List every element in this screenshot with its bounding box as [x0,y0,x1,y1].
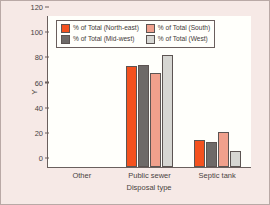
legend-label: % of Total (Mid-west) [73,36,134,43]
y-axis-tick-label: 20 [35,128,45,137]
legend-swatch-icon [61,35,70,44]
x-axis-title: Disposal type [47,183,251,192]
legend-label: % of Total (North-east) [73,25,139,32]
y-axis-tick-label: 40 [35,103,45,112]
bar[interactable] [150,73,161,167]
y-axis-tick: 60 [35,78,48,87]
y-axis-tick: 120 [30,3,48,12]
bar[interactable] [194,140,205,167]
legend-swatch-icon [61,24,70,33]
x-axis-tick-label: Septic tank [199,171,236,180]
x-axis-tick-label: Public sewer [128,171,171,180]
y-axis-tick-label: 100 [30,28,45,37]
y-axis-tick-mark [45,6,49,7]
legend-label: % of Total (South) [158,25,210,32]
y-axis-tick: 0 [39,154,48,163]
chart-figure: Y 020406080100120 OtherPublic sewerSepti… [0,0,270,205]
y-axis-tick-label: 120 [30,3,45,12]
chart-legend: % of Total (North-east)% of Total (South… [56,20,215,48]
y-axis-tick: 40 [35,103,48,112]
bar[interactable] [218,132,229,167]
legend-label: % of Total (West) [158,36,208,43]
legend-swatch-icon [146,24,155,33]
bar[interactable] [206,142,217,167]
bar[interactable] [138,65,149,167]
bar[interactable] [230,151,241,167]
bar[interactable] [162,55,173,167]
y-axis-tick-label: 80 [35,53,45,62]
legend-swatch-icon [146,35,155,44]
bar[interactable] [126,66,137,167]
y-axis-tick: 80 [35,53,48,62]
legend-item[interactable]: % of Total (Mid-west) [61,35,139,44]
y-axis-tick: 20 [35,128,48,137]
y-axis-tick: 100 [30,28,48,37]
legend-item[interactable]: % of Total (South) [146,24,210,33]
y-axis-title: Y [30,89,39,95]
legend-item[interactable]: % of Total (North-east) [61,24,139,33]
x-axis-tick-label: Other [72,171,91,180]
y-axis-tick-label: 60 [35,78,45,87]
legend-item[interactable]: % of Total (West) [146,35,210,44]
